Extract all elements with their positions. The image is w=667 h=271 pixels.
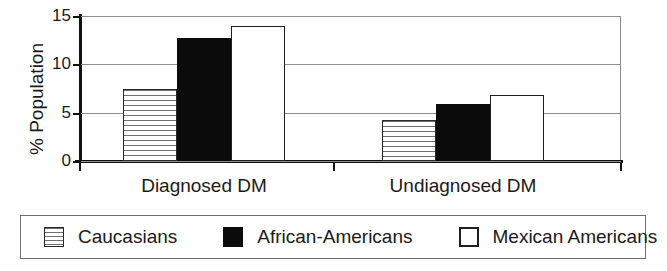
- legend-item-caucasians: Caucasians: [44, 226, 177, 248]
- x-axis-category-label: Undiagnosed DM: [390, 175, 537, 197]
- gridline: [80, 16, 621, 17]
- chart-legend: Caucasians African-Americans Mexican Ame…: [20, 215, 646, 259]
- y-tick-mark: [73, 113, 81, 115]
- y-tick-mark: [73, 64, 81, 66]
- y-tick-label: 5: [62, 102, 71, 122]
- striped-swatch-icon: [44, 227, 64, 247]
- y-tick-label: 0: [62, 151, 71, 171]
- bar: [123, 89, 177, 161]
- gridline: [80, 161, 621, 162]
- black-square-swatch-icon: [223, 227, 243, 247]
- bar: [177, 38, 231, 161]
- bar: [490, 95, 544, 161]
- gridline: [80, 64, 621, 65]
- x-tick-mark: [620, 162, 622, 171]
- legend-label: African-Americans: [257, 226, 412, 248]
- y-tick-label: 15: [52, 6, 71, 26]
- legend-label: Caucasians: [78, 226, 177, 248]
- legend-item-african-americans: African-Americans: [223, 226, 412, 248]
- y-tick-label: 10: [52, 54, 71, 74]
- bar: [436, 104, 490, 161]
- bar-chart: % Population 051015 Diagnosed DMUndiagno…: [0, 0, 667, 271]
- x-tick-mark: [333, 162, 335, 171]
- x-axis-category-label: Diagnosed DM: [141, 175, 267, 197]
- y-axis-title: % Population: [26, 14, 48, 184]
- y-tick-mark: [73, 16, 81, 18]
- legend-label: Mexican Americans: [493, 226, 658, 248]
- bar: [382, 120, 436, 161]
- y-axis-line: [79, 14, 82, 163]
- white-square-swatch-icon: [459, 227, 479, 247]
- x-tick-mark: [79, 162, 81, 171]
- legend-item-mexican-americans: Mexican Americans: [459, 226, 658, 248]
- bar: [231, 26, 285, 161]
- plot-area: 051015: [80, 16, 621, 161]
